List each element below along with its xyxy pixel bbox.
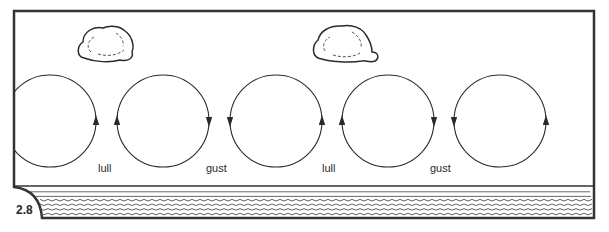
lull-label: lull bbox=[322, 162, 335, 174]
gust-label: gust bbox=[430, 162, 451, 174]
eddy-circle bbox=[4, 75, 99, 167]
cloud-icon bbox=[313, 25, 377, 62]
arrow-down-icon bbox=[431, 117, 437, 127]
wave-line bbox=[40, 213, 592, 215]
arrow-up-icon bbox=[114, 115, 120, 125]
diagram-canvas: lullgustlullgust 2.8 bbox=[0, 0, 609, 232]
arrow-down-icon bbox=[206, 117, 212, 127]
arrow-down-icon bbox=[227, 117, 233, 127]
lull-label: lull bbox=[98, 162, 111, 174]
water bbox=[14, 186, 594, 215]
figure-number: 2.8 bbox=[16, 203, 33, 217]
arrow-down-icon bbox=[451, 117, 457, 127]
eddy-circle bbox=[451, 75, 549, 167]
arrow-up-icon bbox=[543, 115, 549, 125]
gust-label: gust bbox=[206, 162, 227, 174]
wave-line bbox=[40, 204, 592, 206]
cloud-icon bbox=[78, 26, 133, 61]
eddy-circle bbox=[339, 75, 437, 167]
arrow-up-icon bbox=[339, 115, 345, 125]
arrow-up-icon bbox=[319, 115, 325, 125]
arrow-up-icon bbox=[93, 115, 99, 125]
eddy-circle bbox=[227, 75, 325, 167]
wave-line bbox=[40, 209, 592, 211]
eddy-circle bbox=[114, 75, 212, 167]
wave-line bbox=[40, 199, 592, 201]
